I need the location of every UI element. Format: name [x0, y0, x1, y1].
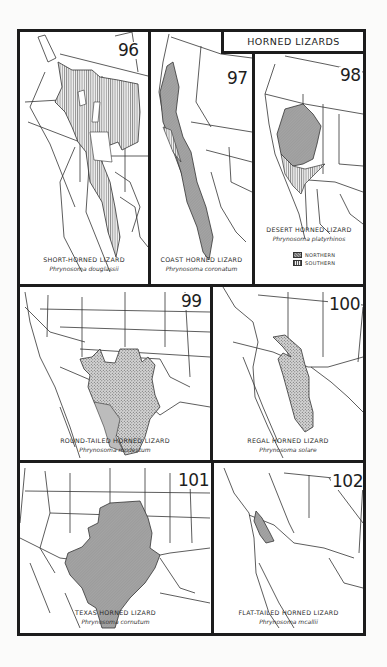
map-number: 100	[328, 296, 361, 313]
hatch-swatch-icon	[293, 260, 302, 266]
map-panel-99: 99 ROUND-TAILED HORNED LIZARD Phrynosoma…	[20, 287, 210, 458]
range-map-96	[20, 32, 148, 283]
map-caption-102: FLAT-TAILED HORNED LIZARD Phrynosoma mca…	[214, 609, 363, 625]
scientific-name: Phrynosoma platyrhinos	[255, 235, 363, 242]
gray-fill-swatch-icon	[293, 252, 302, 258]
map-number: 96	[117, 42, 140, 59]
common-name: ROUND-TAILED HORNED LIZARD	[20, 437, 210, 444]
map-number: 102	[331, 473, 363, 490]
map-caption-96: SHORT-HORNED LIZARD Phrynosoma douglassi…	[20, 256, 148, 272]
common-name: COAST HORNED LIZARD	[151, 256, 252, 263]
common-name: FLAT-TAILED HORNED LIZARD	[214, 609, 363, 616]
legend-item-northern: NORTHERN	[293, 252, 335, 258]
map-caption-98: DESERT HORNED LIZARD Phrynosoma platyrhi…	[255, 226, 363, 242]
scientific-name: Phrynosoma modestum	[20, 446, 210, 453]
map-number: 97	[226, 70, 249, 87]
map-panel-97: 97 COAST HORNED LIZARD Phrynosoma corona…	[151, 32, 252, 283]
scientific-name: Phrynosoma coronatum	[151, 265, 252, 272]
map-panel-96: 96 SHORT-HORNED LIZARD Phrynosoma dougla…	[20, 32, 148, 283]
map-panel-98: 98 DESERT HORNED LIZARD Phrynosoma platy…	[255, 54, 363, 283]
page-title: HORNED LIZARDS	[221, 29, 366, 54]
common-name: REGAL HORNED LIZARD	[213, 437, 363, 444]
map-caption-100: REGAL HORNED LIZARD Phrynosoma solare	[213, 437, 363, 453]
map-number: 101	[177, 472, 210, 489]
scientific-name: Phrynosoma mcallii	[214, 618, 363, 625]
map-panel-102: 102 FLAT-TAILED HORNED LIZARD Phrynosoma…	[214, 463, 363, 633]
common-name: SHORT-HORNED LIZARD	[20, 256, 148, 263]
range-map-99	[20, 287, 210, 458]
common-name: TEXAS HORNED LIZARD	[20, 609, 211, 616]
map-panel-100: 100 REGAL HORNED LIZARD Phrynosoma solar…	[213, 287, 363, 458]
map-legend-98: NORTHERN SOUTHERN	[293, 250, 335, 266]
map-number: 99	[180, 293, 203, 310]
common-name: DESERT HORNED LIZARD	[255, 226, 363, 233]
scientific-name: Phrynosoma douglassii	[20, 265, 148, 272]
legend-item-southern: SOUTHERN	[293, 260, 335, 266]
map-caption-101: TEXAS HORNED LIZARD Phrynosoma cornutum	[20, 609, 211, 625]
scientific-name: Phrynosoma cornutum	[20, 618, 211, 625]
map-caption-97: COAST HORNED LIZARD Phrynosoma coronatum	[151, 256, 252, 272]
map-number: 98	[339, 67, 362, 84]
map-caption-99: ROUND-TAILED HORNED LIZARD Phrynosoma mo…	[20, 437, 210, 453]
scientific-name: Phrynosoma solare	[213, 446, 363, 453]
map-panel-101: 101 TEXAS HORNED LIZARD Phrynosoma cornu…	[20, 463, 211, 633]
range-map-98	[255, 54, 363, 283]
